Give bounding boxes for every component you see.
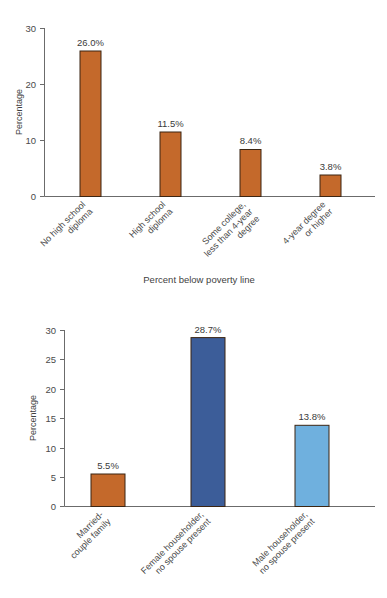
y2-tick-label-10: 10 (45, 443, 56, 454)
y-tick-label-30: 30 (25, 23, 36, 34)
bar-4-year-degree (320, 175, 341, 197)
bar-male-householder (295, 425, 329, 506)
data-label-male-householder: 13.8% (299, 411, 326, 422)
y2-tick-label-5: 5 (51, 472, 56, 483)
figure-1-svg: 30 20 10 0 Percentage 26.0% 11.5% 8.4% 3… (0, 0, 387, 300)
y-tick-label-10: 10 (25, 135, 36, 146)
data-label-married-couple-family: 5.5% (97, 460, 119, 471)
category-label-female-householder: Female householder, no spouse present (139, 509, 213, 583)
x-axis-caption: Percent below poverty line (143, 274, 254, 285)
bar-female-householder (191, 338, 225, 507)
category-label-4-year-degree: 4-year degree or higher (281, 199, 335, 253)
data-label-high-school-diploma: 11.5% (157, 118, 184, 129)
chart-poverty-by-family-type: 30 25 20 15 10 5 0 Percentage 5.5% 28.7%… (0, 300, 387, 598)
category-label-male-householder: Male householder, no spouse present (250, 509, 317, 576)
y2-tick-label-25: 25 (45, 354, 56, 365)
bar-high-school-diploma (160, 132, 181, 197)
bar-no-high-school-diploma (80, 51, 101, 197)
y-tick-label-0: 0 (31, 191, 36, 202)
category-label-married-couple-family: Married- couple family (61, 509, 113, 561)
y-tick-label-20: 20 (25, 79, 36, 90)
y2-tick-label-0: 0 (51, 501, 56, 512)
y-axis-title-2: Percentage (28, 395, 38, 441)
y2-tick-label-15: 15 (45, 413, 56, 424)
category-label-some-college: Some college, less than 4-year degree (195, 199, 262, 266)
data-label-some-college: 8.4% (240, 135, 262, 146)
data-label-no-high-school-diploma: 26.0% (77, 37, 104, 48)
data-label-4-year-degree: 3.8% (320, 161, 342, 172)
data-label-female-householder: 28.7% (195, 324, 222, 335)
cat2-2-line1: Female householder, (139, 509, 206, 576)
chart-poverty-by-education: 30 20 10 0 Percentage 26.0% 11.5% 8.4% 3… (0, 0, 387, 300)
category-label-high-school-diploma: High school diploma (127, 199, 174, 246)
figure-2-svg: 30 25 20 15 10 5 0 Percentage 5.5% 28.7%… (0, 300, 387, 598)
y2-tick-label-20: 20 (45, 384, 56, 395)
y2-tick-label-30: 30 (45, 325, 56, 336)
bar-some-college (240, 150, 261, 197)
bar-married-couple-family (91, 474, 125, 507)
y-axis-title: Percentage (14, 89, 24, 135)
category-label-no-high-school-diploma: No high school diploma (38, 199, 94, 255)
